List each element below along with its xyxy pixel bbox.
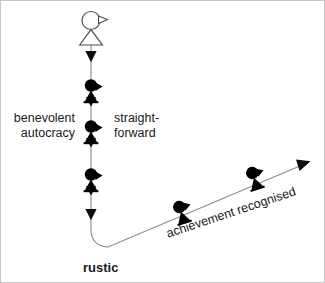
filled-person-vertical-2	[84, 120, 103, 147]
down-arrowhead-upper	[85, 51, 96, 62]
outline-person-head	[82, 12, 100, 30]
label-straightforward: straight- forward	[114, 111, 159, 141]
label-benevolent-autocracy: benevolent autocracy	[5, 111, 75, 141]
outline-person-body	[80, 30, 103, 45]
filled-person-vertical-1	[84, 79, 103, 106]
outline-person-nose-icon	[99, 16, 108, 24]
diagram-drawing	[1, 1, 325, 283]
down-arrowhead-lower	[85, 209, 96, 220]
outline-person-figure	[80, 12, 108, 46]
filled-person-vertical-3	[84, 168, 103, 195]
diagram-canvas: benevolent autocracy straight- forward r…	[0, 0, 325, 283]
label-rustic: rustic	[83, 260, 118, 275]
diagonal-arrowhead	[296, 160, 311, 171]
